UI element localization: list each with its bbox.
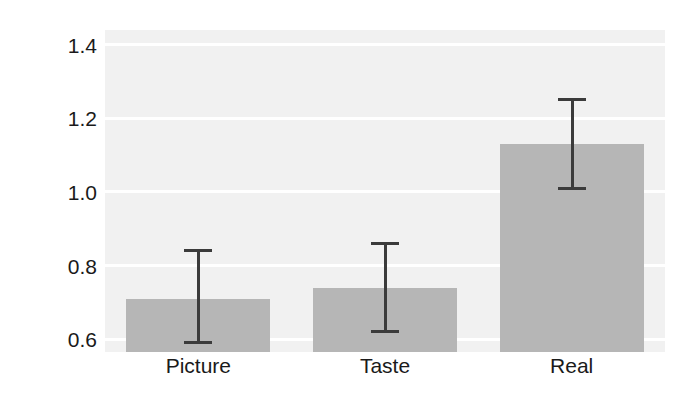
gridline	[105, 43, 665, 46]
x-tick-label: Picture	[166, 355, 231, 376]
error-bar-cap-lower	[184, 341, 212, 344]
error-bar-cap-upper	[371, 242, 399, 245]
error-bar-line	[384, 243, 387, 331]
gridline	[105, 117, 665, 120]
plot-area	[105, 30, 665, 352]
x-tick-label: Taste	[360, 355, 410, 376]
y-axis-tick-labels: 0.60.81.01.21.4	[35, 0, 97, 399]
error-bar-cap-lower	[558, 187, 586, 190]
y-tick-label: 1.4	[39, 34, 97, 55]
bar-chart-figure: Bid ( $ ) 0.60.81.01.21.4 PictureTasteRe…	[0, 0, 680, 399]
error-bar-cap-upper	[558, 98, 586, 101]
error-bar-line	[197, 251, 200, 343]
x-tick-label: Real	[550, 355, 593, 376]
error-bar-cap-lower	[371, 330, 399, 333]
y-tick-label: 1.2	[39, 108, 97, 129]
x-axis-tick-labels: PictureTasteReal	[105, 355, 665, 395]
y-tick-label: 0.6	[39, 329, 97, 350]
y-tick-label: 1.0	[39, 181, 97, 202]
y-tick-label: 0.8	[39, 255, 97, 276]
error-bar-line	[571, 100, 574, 188]
error-bar-cap-upper	[184, 249, 212, 252]
